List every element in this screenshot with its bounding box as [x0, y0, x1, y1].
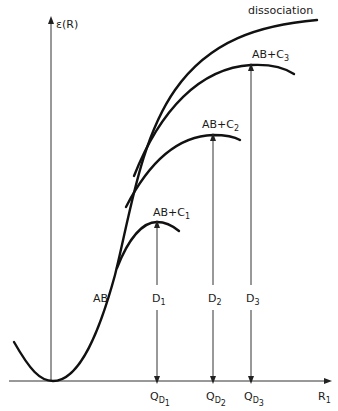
x-axis-label: R1 [318, 390, 331, 405]
label-ab-c2: AB+C2 [202, 118, 239, 133]
label-dissociation: dissociation [248, 4, 313, 17]
curve-ab-c2 [126, 135, 240, 207]
label-ab: AB [93, 292, 108, 305]
curve-dissociation [14, 20, 317, 381]
label-ab-c1: AB+C1 [153, 206, 190, 221]
label-d1: D1 [152, 292, 166, 307]
label-d2: D2 [208, 292, 222, 307]
label-d3: D3 [246, 292, 260, 307]
y-axis-label: ε(R) [56, 18, 78, 31]
label-qd1: QD1 [150, 390, 170, 408]
label-ab-c3: AB+C3 [252, 48, 289, 63]
label-qd2: QD2 [206, 390, 226, 408]
potential-energy-diagram: ε(R) dissociation AB+C3 AB+C2 AB+C1 AB D… [0, 0, 338, 411]
label-qd3: QD3 [244, 390, 264, 408]
